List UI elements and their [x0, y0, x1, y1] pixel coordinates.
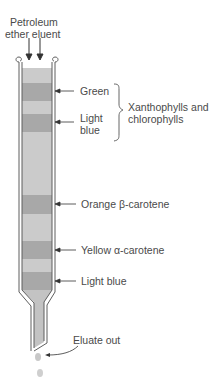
eluent-label-line2: ether eluent: [5, 28, 60, 40]
eluate-label: Eluate out: [73, 334, 120, 346]
band-label-yellow: Yellow α-carotene: [81, 244, 164, 256]
band-label-light-blue-1a: Light: [80, 112, 103, 124]
eluate-drop: [35, 353, 41, 361]
group-label-line1: Xanthophylls and: [128, 101, 209, 113]
band-pointers: [55, 89, 76, 283]
eluent-label-line1: Petroleum: [10, 16, 58, 28]
eluate-pointer: [48, 346, 78, 355]
band-label-light-blue-1b: blue: [80, 124, 100, 136]
group-label-line2: chlorophylls: [128, 113, 183, 125]
group-brace: [114, 84, 123, 141]
eluate-drop-2: [37, 369, 43, 377]
eluent-arrows: [26, 38, 43, 60]
band-label-orange: Orange β-carotene: [81, 198, 169, 210]
band-label-green: Green: [80, 85, 109, 97]
band-label-light-blue-2: Light blue: [81, 275, 127, 287]
chromatography-diagram: [0, 0, 218, 385]
